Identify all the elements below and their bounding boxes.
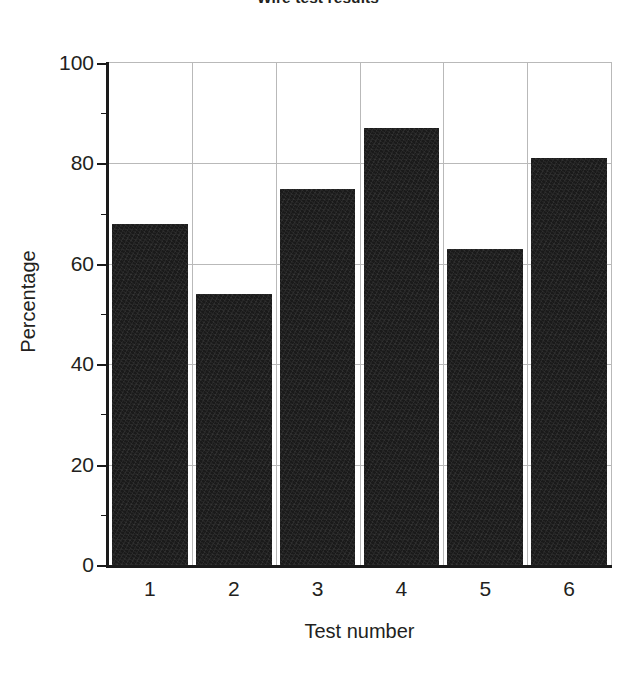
y-axis-tick-label: 40 bbox=[34, 353, 94, 374]
x-axis-tick-label: 4 bbox=[371, 578, 431, 599]
bar bbox=[112, 224, 188, 565]
x-axis-tick-labels: 123456 bbox=[108, 578, 611, 608]
bar bbox=[280, 189, 356, 566]
x-axis-title: Test number bbox=[108, 620, 611, 643]
gridline-vertical bbox=[192, 63, 193, 565]
chart-title: Wire test results bbox=[0, 0, 636, 7]
y-axis-tick-label: 100 bbox=[34, 52, 94, 73]
bar bbox=[196, 294, 272, 565]
y-axis-tick-label: 60 bbox=[34, 253, 94, 274]
gridline-vertical bbox=[527, 63, 528, 565]
y-axis-tick-label: 0 bbox=[34, 554, 94, 575]
gridline-vertical bbox=[443, 63, 444, 565]
x-axis-line bbox=[106, 565, 612, 568]
x-axis-tick-label: 3 bbox=[288, 578, 348, 599]
y-axis-tick-label: 20 bbox=[34, 454, 94, 475]
y-axis-line bbox=[106, 62, 109, 566]
bar-chart-figure: Wire test results 100806040200 123456 Te… bbox=[0, 0, 636, 677]
bar bbox=[364, 128, 440, 565]
bar bbox=[447, 249, 523, 565]
x-axis-tick-label: 6 bbox=[539, 578, 599, 599]
y-axis-title: Percentage bbox=[17, 192, 40, 412]
gridline-vertical bbox=[276, 63, 277, 565]
bar bbox=[531, 158, 607, 565]
plot-right-border bbox=[611, 62, 612, 565]
gridline-vertical bbox=[360, 63, 361, 565]
x-axis-tick-label: 2 bbox=[204, 578, 264, 599]
x-axis-tick-label: 5 bbox=[455, 578, 515, 599]
x-axis-tick-label: 1 bbox=[120, 578, 180, 599]
plot-top-border bbox=[108, 62, 611, 63]
plot-area bbox=[108, 63, 611, 565]
y-axis-tick-label: 80 bbox=[34, 152, 94, 173]
